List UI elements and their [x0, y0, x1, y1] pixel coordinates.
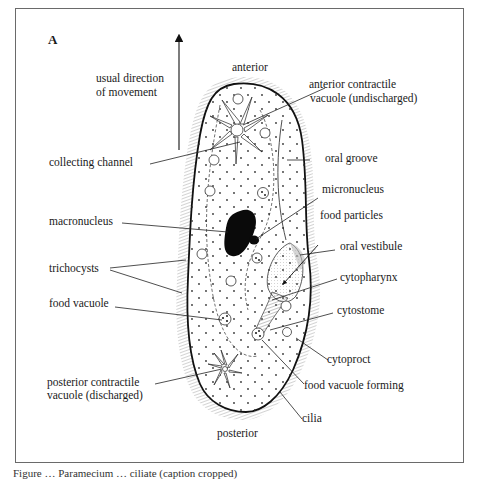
- label-micronucleus: micronucleus: [322, 183, 384, 195]
- label-cytoproct: cytoproct: [327, 353, 371, 366]
- label-food-vacuole: food vacuole: [49, 297, 109, 309]
- label-cytopharynx: cytopharynx: [340, 271, 398, 284]
- micronucleus-shape: [249, 236, 259, 245]
- label-oral-vestibule: oral vestibule: [340, 240, 402, 252]
- label-macronucleus: macronucleus: [49, 215, 113, 227]
- label-cytostome: cytostome: [337, 304, 384, 317]
- label-anterior-contractile-vacuole-line1: anterior contractile: [309, 78, 396, 90]
- posterior-label: posterior: [217, 427, 258, 440]
- label-cilia: cilia: [302, 412, 322, 424]
- label-posterior-contractile-vacuole-line2: vacuole (discharged): [47, 389, 143, 402]
- label-food-vacuole-forming: food vacuole forming: [304, 379, 404, 392]
- direction-label-line1: usual direction: [96, 72, 164, 84]
- label-oral-groove: oral groove: [325, 152, 378, 165]
- panel-label: A: [48, 32, 58, 47]
- label-posterior-contractile-vacuole-line1: posterior contractile: [47, 376, 139, 389]
- direction-label-line2: of movement: [96, 86, 158, 98]
- paramecium-cell: [176, 77, 320, 420]
- label-collecting-channel: collecting channel: [49, 156, 133, 169]
- label-trichocysts: trichocysts: [49, 262, 99, 275]
- anterior-label: anterior: [232, 61, 268, 73]
- label-anterior-contractile-vacuole-line2: vacuole (undischarged): [310, 92, 418, 105]
- label-food-particles: food particles: [320, 209, 383, 222]
- figure-caption: Figure … Paramecium … ciliate (caption c…: [13, 467, 237, 479]
